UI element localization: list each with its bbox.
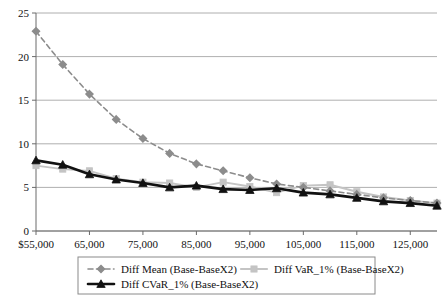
data-point-marker bbox=[166, 150, 173, 157]
x-tick-label: $55,000 bbox=[18, 238, 54, 250]
x-tick-label: 65,000 bbox=[74, 238, 105, 250]
legend-label: Diff CVaR_1% (Base-BaseX2) bbox=[121, 278, 259, 291]
legend-label: Diff VaR_1% (Base-BaseX2) bbox=[274, 263, 404, 276]
legend-label: Diff Mean (Base-BaseX2) bbox=[121, 263, 237, 276]
x-axis-tick-labels: $55,00065,00075,00085,00095,000105,00011… bbox=[18, 238, 429, 250]
data-series-layer bbox=[32, 28, 441, 209]
line-chart: 0510152025 $55,00065,00075,00085,00095,0… bbox=[0, 0, 448, 304]
legend-square-icon bbox=[251, 266, 257, 272]
y-axis-tick-labels: 0510152025 bbox=[18, 7, 30, 237]
y-tick-label: 20 bbox=[18, 51, 30, 63]
series-diff-mean bbox=[33, 28, 441, 207]
chart-legend: Diff Mean (Base-BaseX2)Diff VaR_1% (Base… bbox=[78, 257, 404, 294]
x-axis-ticks bbox=[36, 231, 410, 235]
x-tick-label: 95,000 bbox=[235, 238, 266, 250]
x-tick-label: 125,000 bbox=[392, 238, 428, 250]
x-tick-label: 115,000 bbox=[339, 238, 375, 250]
data-point-marker bbox=[220, 167, 227, 174]
data-point-marker bbox=[193, 160, 200, 167]
y-axis-ticks bbox=[32, 13, 36, 231]
chart-container: 0510152025 $55,00065,00075,00085,00095,0… bbox=[0, 0, 448, 304]
x-tick-label: 105,000 bbox=[285, 238, 321, 250]
series-line bbox=[36, 160, 437, 205]
series-diff-cvar bbox=[32, 156, 441, 209]
x-tick-label: 75,000 bbox=[128, 238, 159, 250]
series-line bbox=[36, 31, 437, 203]
y-tick-label: 25 bbox=[18, 7, 30, 19]
data-point-marker bbox=[246, 174, 253, 181]
y-tick-label: 15 bbox=[18, 94, 30, 106]
y-tick-label: 5 bbox=[24, 181, 30, 193]
gridlines bbox=[36, 13, 437, 231]
y-tick-label: 10 bbox=[18, 138, 30, 150]
x-tick-label: 85,000 bbox=[181, 238, 212, 250]
y-tick-label: 0 bbox=[24, 225, 30, 237]
